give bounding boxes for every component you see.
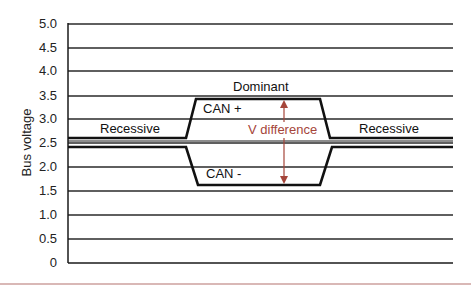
y-tick: 4.5	[17, 41, 57, 55]
y-tick: 2.0	[17, 160, 57, 174]
y-tick: 5.0	[17, 17, 57, 31]
label-can-minus: CAN -	[206, 167, 241, 181]
label-dominant: Dominant	[233, 80, 289, 94]
y-tick: 4.0	[17, 64, 57, 78]
label-v-difference: V difference	[248, 123, 317, 137]
v-difference-arrow	[280, 100, 288, 184]
label-recessive-left: Recessive	[100, 122, 160, 136]
y-tick: 3.0	[17, 112, 57, 126]
label-recessive-right: Recessive	[359, 122, 419, 136]
y-tick: 0.5	[17, 232, 57, 246]
y-tick: 3.5	[17, 89, 57, 103]
y-tick: 1.0	[17, 208, 57, 222]
y-tick: 0	[17, 256, 57, 270]
can-minus-trace	[68, 147, 453, 185]
y-tick: 2.5	[17, 136, 57, 150]
label-can-plus: CAN +	[203, 102, 242, 116]
diagram-canvas	[0, 0, 471, 289]
bottom-separator	[0, 283, 471, 285]
y-tick: 1.5	[17, 184, 57, 198]
